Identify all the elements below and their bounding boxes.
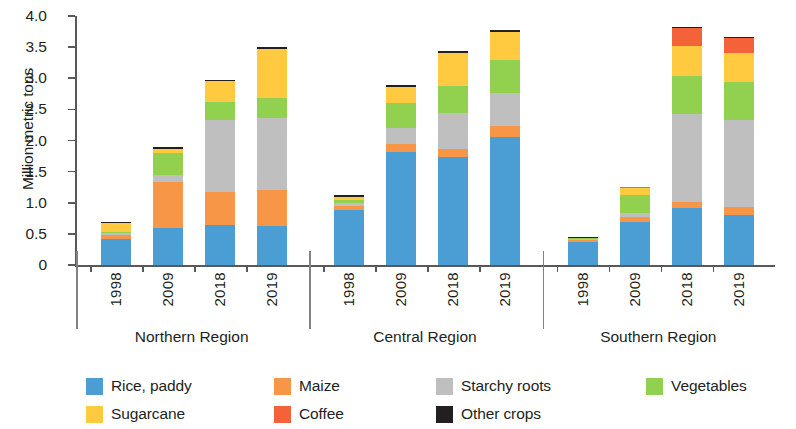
bar-segment[interactable]	[568, 242, 598, 265]
legend-item[interactable]: Vegetables	[646, 372, 747, 400]
bar-segment[interactable]	[153, 153, 183, 175]
bar-segment[interactable]	[438, 157, 468, 265]
legend-item[interactable]: Other crops	[436, 400, 541, 428]
bar-segment[interactable]	[724, 82, 754, 120]
bar-segment[interactable]	[257, 98, 287, 118]
bar-segment[interactable]	[490, 32, 520, 59]
bar-segment[interactable]	[205, 81, 235, 102]
bar-stack[interactable]	[386, 85, 416, 265]
bar-stack[interactable]	[620, 187, 650, 265]
bar-segment[interactable]	[334, 210, 364, 265]
x-axis-tick	[375, 265, 377, 272]
bar-segment[interactable]	[672, 28, 702, 45]
legend-label: Starchy roots	[461, 377, 551, 395]
bar-segment[interactable]	[386, 128, 416, 144]
bar-segment[interactable]	[672, 46, 702, 77]
bar-segment[interactable]	[205, 192, 235, 225]
bar-segment[interactable]	[724, 53, 754, 82]
bar-segment[interactable]	[490, 137, 520, 265]
bar-stack[interactable]	[101, 222, 131, 265]
bar-segment[interactable]	[257, 190, 287, 226]
legend-item[interactable]: Coffee	[274, 400, 344, 428]
bar-segment[interactable]	[386, 144, 416, 153]
y-axis-tick-label: 3.0	[7, 70, 47, 86]
legend-item[interactable]: Sugarcane	[86, 400, 185, 428]
bar-stack[interactable]	[205, 80, 235, 265]
legend-swatch-icon	[436, 378, 453, 395]
x-axis-tick	[323, 265, 325, 272]
bar-segment[interactable]	[205, 120, 235, 192]
bar-segment[interactable]	[257, 49, 287, 98]
x-axis-label: 2018	[211, 272, 229, 307]
bar-segment[interactable]	[490, 60, 520, 93]
bar-stack[interactable]	[568, 237, 598, 265]
plot-area: 4.03.53.02.52.01.51.00.50	[75, 16, 775, 265]
bar-segment[interactable]	[153, 175, 183, 182]
bar-segment[interactable]	[620, 195, 650, 212]
bar-segment[interactable]	[386, 87, 416, 103]
bar-segment[interactable]	[205, 102, 235, 120]
y-axis-tick	[68, 140, 75, 142]
bar-segment[interactable]	[205, 225, 235, 265]
bar-stack[interactable]	[334, 195, 364, 265]
bar-segment[interactable]	[257, 118, 287, 190]
chart-legend: Rice, paddyMaizeStarchy rootsVegetables …	[86, 372, 786, 428]
bar-segment[interactable]	[438, 113, 468, 148]
bar-segment[interactable]	[438, 149, 468, 158]
bar-segment[interactable]	[490, 93, 520, 126]
bar-segment[interactable]	[438, 53, 468, 87]
legend-item[interactable]: Rice, paddy	[86, 372, 192, 400]
x-axis-line	[75, 265, 775, 267]
legend-swatch-icon	[274, 378, 291, 395]
bar-segment[interactable]	[672, 76, 702, 114]
bar-segment[interactable]	[386, 152, 416, 265]
y-axis-tick-label: 1.0	[7, 195, 47, 211]
legend-row: SugarcaneCoffeeOther crops	[86, 400, 786, 428]
legend-swatch-icon	[646, 378, 663, 395]
bar-stack[interactable]	[257, 47, 287, 265]
x-axis-tick	[557, 265, 559, 272]
bar-segment[interactable]	[620, 188, 650, 195]
bar-stack[interactable]	[672, 27, 702, 265]
x-axis-label: 1998	[107, 272, 125, 307]
group-divider	[775, 251, 777, 329]
bar-stack[interactable]	[153, 147, 183, 265]
bar-segment[interactable]	[724, 215, 754, 265]
group-divider	[543, 251, 545, 329]
y-axis-tick-label: 0	[7, 257, 47, 273]
bar-segment[interactable]	[438, 86, 468, 113]
bar-segment[interactable]	[153, 228, 183, 265]
bar-stack[interactable]	[490, 30, 520, 265]
bar-segment[interactable]	[620, 222, 650, 265]
group-divider	[76, 251, 78, 329]
bar-segment[interactable]	[672, 114, 702, 202]
legend-label: Other crops	[461, 405, 541, 423]
bar-stack[interactable]	[438, 51, 468, 265]
legend-label: Rice, paddy	[111, 377, 192, 395]
bar-stack[interactable]	[724, 37, 754, 265]
legend-item[interactable]: Maize	[274, 372, 340, 400]
x-axis-tick	[609, 265, 611, 272]
group-label: Central Region	[308, 328, 541, 346]
group-divider	[309, 251, 311, 329]
bar-segment[interactable]	[257, 226, 287, 265]
y-axis-tick-label: 3.5	[7, 39, 47, 55]
x-axis-label: 2019	[496, 272, 514, 307]
y-axis-tick	[68, 264, 75, 266]
bar-segment[interactable]	[724, 207, 754, 214]
group-label: Southern Region	[542, 328, 775, 346]
x-axis-label: 2019	[730, 272, 748, 307]
bar-segment[interactable]	[490, 126, 520, 137]
bar-segment[interactable]	[724, 120, 754, 207]
bar-segment[interactable]	[724, 38, 754, 54]
bar-segment[interactable]	[153, 182, 183, 227]
y-axis-line	[75, 16, 77, 265]
bar-segment[interactable]	[386, 103, 416, 129]
x-axis-tick	[90, 265, 92, 272]
group-label: Northern Region	[75, 328, 308, 346]
legend-item[interactable]: Starchy roots	[436, 372, 551, 400]
bar-segment[interactable]	[101, 223, 131, 232]
bar-segment[interactable]	[101, 239, 131, 265]
bar-segment[interactable]	[672, 208, 702, 265]
y-axis-tick-label: 2.5	[7, 101, 47, 117]
